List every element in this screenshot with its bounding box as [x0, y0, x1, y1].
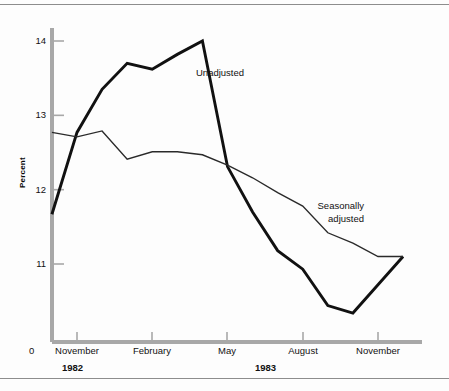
- origin-zero-label: 0: [29, 345, 34, 356]
- year-label-1982: 1982: [62, 362, 83, 373]
- series-line-seasonally-adjusted: [52, 131, 403, 257]
- annotation-seasonally-adjusted: Seasonally adjusted: [296, 199, 364, 225]
- annotation-seasonally-line2: adjusted: [296, 212, 364, 225]
- x-tick-label-3: August: [263, 345, 343, 356]
- figure-container: Percent 0 11121314 NovemberFebruaryMayAu…: [0, 0, 449, 391]
- x-tick-label-1: February: [112, 345, 192, 356]
- y-tick-label-12: 12: [20, 184, 46, 195]
- line-chart: [0, 0, 449, 391]
- x-tick-label-2: May: [187, 345, 267, 356]
- y-tick-label-13: 13: [20, 109, 46, 120]
- y-tick-marks: [54, 41, 64, 264]
- annotation-unadjusted: Unadjusted: [196, 66, 244, 79]
- x-tick-label-4: November: [338, 345, 418, 356]
- x-tick-label-0: November: [37, 345, 117, 356]
- year-label-1983: 1983: [255, 362, 276, 373]
- y-tick-label-11: 11: [20, 258, 46, 269]
- x-tick-marks: [77, 332, 378, 340]
- y-tick-label-14: 14: [20, 35, 46, 46]
- series-line-unadjusted: [52, 41, 403, 313]
- annotation-seasonally-line1: Seasonally: [296, 199, 364, 212]
